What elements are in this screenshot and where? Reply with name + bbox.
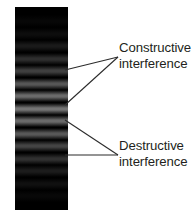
fringe-band: [15, 128, 68, 141]
label-constructive-line1: Constructive: [119, 40, 191, 56]
fringe-band: [15, 15, 68, 28]
fringe-band: [15, 103, 68, 116]
fringe-band: [15, 165, 68, 178]
label-destructive-interference: Destructive interference: [119, 138, 187, 169]
leader-line-constructive: [65, 57, 118, 105]
leader-line: [65, 57, 118, 70]
label-constructive-interference: Constructive interference: [119, 40, 191, 71]
label-destructive-line2: interference: [119, 154, 187, 170]
label-constructive-line2: interference: [119, 56, 191, 72]
leader-line: [65, 57, 118, 105]
label-destructive-line1: Destructive: [119, 138, 187, 154]
fringe-band: [15, 65, 68, 78]
fringe-band: [15, 115, 68, 128]
leader-line: [65, 120, 118, 155]
fringe-band: [15, 90, 68, 103]
figure-canvas: Constructive interference Destructive in…: [0, 0, 194, 216]
interference-fringe-pattern: [15, 7, 68, 210]
fringe-band: [15, 53, 68, 66]
fringe-band: [15, 28, 68, 41]
fringe-band: [15, 140, 68, 153]
fringe-band: [15, 40, 68, 53]
fringe-band: [15, 153, 68, 166]
leader-line-destructive: [65, 120, 118, 155]
fringe-band: [15, 190, 68, 203]
fringe-band: [15, 78, 68, 91]
fringe-band: [15, 178, 68, 191]
